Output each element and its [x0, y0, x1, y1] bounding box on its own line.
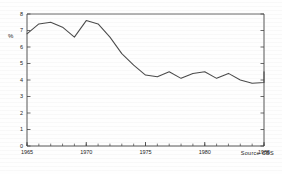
x-tick-label: 1975: [133, 149, 159, 155]
y-tick-label: 3: [11, 93, 23, 99]
x-tick-label: 1980: [192, 149, 218, 155]
y-tick-label: 5: [11, 60, 23, 66]
x-tick-label: 1965: [14, 149, 40, 155]
y-tick-label: 0: [11, 143, 23, 149]
y-tick-label: 6: [11, 44, 23, 50]
x-tick-label: 1970: [73, 149, 99, 155]
y-tick-label: 8: [11, 11, 23, 17]
source-note: Source CBS: [241, 150, 274, 156]
y-tick-label: 2: [11, 110, 23, 116]
y-tick-label: 4: [11, 77, 23, 83]
line-chart-plot: [0, 0, 282, 174]
y-tick-label: 1: [11, 126, 23, 132]
y-axis-label: %: [8, 33, 13, 39]
chart-axes: [27, 14, 264, 146]
chart-figure: % 012345678 19651970197519801985 Source …: [0, 0, 282, 174]
data-series-line: [27, 21, 264, 84]
y-tick-label: 7: [11, 27, 23, 33]
